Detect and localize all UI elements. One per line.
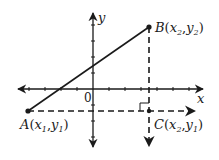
point-a-name: A <box>20 117 29 132</box>
point-b-x: x <box>170 20 177 35</box>
x-axis-label: x <box>197 92 204 105</box>
point-b-label: B(x2,y2) <box>155 21 204 37</box>
point-a <box>25 108 30 113</box>
point-c <box>147 109 151 113</box>
point-c-y: y <box>186 117 193 132</box>
point-b-name: B <box>155 20 165 35</box>
coordinate-plane-figure: y x 0 B(x2,y2) A(x1,y1) C(x2,y1) <box>0 0 219 160</box>
y-axis-label: y <box>98 11 105 24</box>
point-b-y: y <box>186 20 193 35</box>
point-c-name: C <box>154 117 164 132</box>
point-c-label: C(x2,y1) <box>154 118 203 134</box>
point-b <box>146 24 151 29</box>
origin-label: 0 <box>84 92 92 104</box>
point-a-label: A(x1,y1) <box>20 118 69 134</box>
point-a-x: x <box>34 117 41 132</box>
